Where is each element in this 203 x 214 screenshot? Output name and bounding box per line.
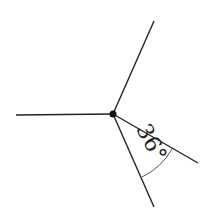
- angle-diagram: 36°: [0, 0, 203, 214]
- vertex-point: [110, 111, 117, 118]
- ray-upper: [113, 21, 154, 114]
- ray-left: [16, 114, 113, 115]
